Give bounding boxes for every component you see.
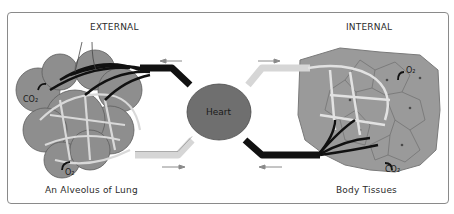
lung-co2-label: CO₂ [23,95,38,104]
tissues-label: Body Tissues [336,185,397,195]
lung-label: An Alveolus of Lung [45,185,138,195]
tissue-co2-label: CO₂ [385,165,400,174]
pulmonary-artery [135,140,192,155]
heart-label: Heart [206,107,231,117]
internal-label: INTERNAL [346,22,392,32]
tissue-o2-label: O₂ [406,66,416,75]
lung-o2-label: O₂ [65,168,75,177]
external-label: EXTERNAL [90,22,139,32]
